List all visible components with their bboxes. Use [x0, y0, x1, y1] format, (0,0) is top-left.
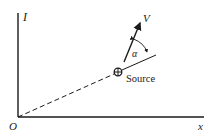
source-label: Source [126, 74, 155, 85]
angle-label: α [132, 49, 137, 59]
dashed-line-origin-to-source [18, 74, 114, 117]
source-geometry-diagram: I O x V α Source [0, 0, 216, 136]
reference-line [122, 55, 156, 70]
source-circled-plus-icon [114, 68, 122, 76]
vertical-axis-label: I [23, 11, 27, 23]
horizontal-axis-label: x [198, 121, 203, 132]
origin-label: O [9, 121, 17, 132]
diagram-canvas [0, 0, 216, 136]
velocity-label: V [143, 13, 150, 24]
